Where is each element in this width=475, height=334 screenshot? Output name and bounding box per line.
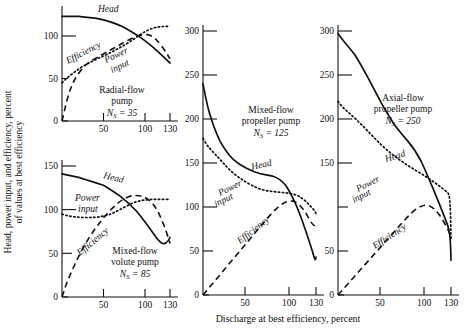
panel4-ylabel-50: 50	[325, 246, 335, 256]
svg-text:NS = 250: NS = 250	[384, 116, 420, 127]
panel3-ylabel-150: 150	[185, 158, 200, 168]
panel3-ylabel-300: 300	[185, 26, 200, 36]
panel3-curve-efficiency	[203, 201, 316, 295]
panel4-ns-value: = 250	[395, 116, 421, 126]
panel4-label-efficiency: Efficiency	[370, 221, 409, 251]
panel2-specific-speed: NS = 85	[119, 269, 151, 280]
panel4-xlabel-130: 130	[444, 298, 459, 308]
panel4-label-power-input: input	[350, 187, 372, 205]
panel3-label-power-input: input	[212, 191, 234, 209]
panel4-specific-speed: NS = 250	[384, 116, 420, 127]
panel3-ylabel-200: 200	[185, 114, 200, 124]
panel3-label-head: Head	[249, 158, 273, 173]
panel3-ylabel-250: 250	[185, 70, 200, 80]
panel2-label-power-input: input	[78, 204, 98, 214]
panel4-title-line2: propeller pump	[374, 104, 433, 114]
panel-mixed-flow-volute-pump: 0 50 100 150 50 100 130 Head Power input…	[44, 160, 178, 310]
panel2-label-head: Head	[102, 170, 126, 185]
svg-text:NS = 85: NS = 85	[119, 269, 151, 280]
y-axis-label-line1: Head, power input, and efficiency, perce…	[2, 90, 13, 253]
panel4-ylabel-150: 150	[320, 158, 335, 168]
panel3-specific-speed: NS = 125	[252, 128, 288, 139]
panel4-xlabel-50: 50	[375, 298, 385, 308]
panel2-ylabel-100: 100	[44, 205, 59, 215]
panel3-ylabel-100: 100	[185, 202, 200, 212]
panel1-label-efficiency: Efficiency	[63, 39, 103, 66]
panel2-title-line1: Mixed-flow	[112, 246, 158, 256]
panel-axial-flow-propeller-pump: 0 50 150 200 250 300 50 100 130 Head Pow…	[320, 25, 459, 308]
panel4-ylabel-250: 250	[320, 70, 335, 80]
svg-text:NS = 35: NS = 35	[106, 108, 138, 119]
panel1-ylabel-0: 0	[53, 116, 58, 126]
panel2-ylabel-0: 0	[53, 292, 58, 302]
panel1-title-line1: Radial-flow	[99, 85, 145, 95]
panel1-ylabel-50: 50	[49, 74, 59, 84]
panel2-label-power: Power	[74, 193, 100, 203]
panel-mixed-flow-propeller-pump: 0 50 100 150 200 250 300 50 100 130 Head…	[185, 25, 324, 308]
y-axis-label-line2: of values at best efficiency	[13, 120, 24, 223]
panel3-ns-value: = 125	[263, 128, 289, 138]
panel1-ylabel-100: 100	[44, 31, 59, 41]
panel2-xlabel-130: 130	[163, 300, 178, 310]
panel1-specific-speed: NS = 35	[106, 108, 138, 119]
x-axis-label: Discharge at best efficiency, percent	[216, 313, 361, 324]
panel1-xlabel-130: 130	[163, 124, 178, 134]
pump-performance-figure: Head, power input, and efficiency, perce…	[0, 0, 475, 334]
panel3-label-efficiency: Efficiency	[234, 214, 271, 246]
panel2-ylabel-50: 50	[49, 249, 59, 259]
panel1-xlabel-100: 100	[138, 124, 153, 134]
panel1-title-line2: pump	[111, 96, 133, 106]
panel4-ylabel-0: 0	[329, 290, 334, 300]
panel2-ylabel-150: 150	[44, 161, 59, 171]
y-axis-label: Head, power input, and efficiency, perce…	[2, 90, 24, 253]
panel2-xlabel-50: 50	[99, 300, 109, 310]
panel4-curve-efficiency	[338, 205, 451, 295]
panel1-xlabel-50: 50	[99, 124, 109, 134]
panel4-title-line1: Axial-flow	[382, 93, 424, 103]
panel3-title-line1: Mixed-flow	[248, 105, 294, 115]
panel3-xlabel-100: 100	[282, 298, 297, 308]
panel2-label-efficiency: Efficiency	[74, 225, 111, 258]
panel3-xlabel-130: 130	[309, 298, 324, 308]
panel2-xlabel-100: 100	[138, 300, 153, 310]
panel3-ylabel-50: 50	[190, 246, 200, 256]
panel3-xlabel-50: 50	[240, 298, 250, 308]
figure-canvas: Head, power input, and efficiency, perce…	[0, 0, 475, 334]
panel4-ylabel-200: 200	[320, 114, 335, 124]
panel2-title-line2: volute pump	[111, 257, 159, 267]
panel3-title-line2: propeller pump	[242, 116, 301, 126]
panel-radial-flow-pump: 0 50 100 50 100 130 Head Efficiency Powe…	[44, 4, 178, 134]
panel4-xlabel-100: 100	[417, 298, 432, 308]
panel1-label-head: Head	[97, 4, 119, 14]
panel3-ylabel-0: 0	[194, 290, 199, 300]
panel4-ylabel-300: 300	[320, 26, 335, 36]
panel2-ns-value: = 85	[130, 269, 151, 279]
svg-text:NS = 125: NS = 125	[252, 128, 288, 139]
panel1-ns-value: = 35	[117, 108, 138, 118]
